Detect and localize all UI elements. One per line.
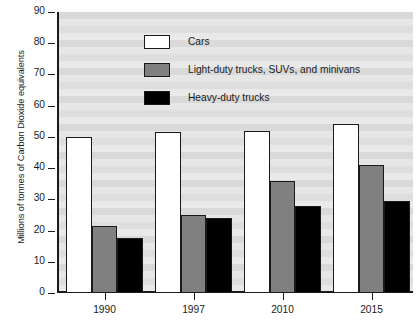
- bar: [155, 132, 181, 293]
- bar: [270, 181, 296, 293]
- y-tick-label: 40: [34, 161, 45, 172]
- bar: [92, 226, 118, 293]
- y-tick-label: 20: [34, 224, 45, 235]
- y-tick-mark: [48, 74, 55, 75]
- bar: [206, 218, 232, 293]
- x-tick-mark: [194, 293, 195, 300]
- y-tick-label: 80: [34, 36, 45, 47]
- x-tick-mark: [105, 293, 106, 300]
- y-tick-mark: [48, 137, 55, 138]
- legend-item: Cars: [144, 31, 360, 52]
- legend-label: Cars: [188, 36, 210, 47]
- legend: CarsLight-duty trucks, SUVs, and minivan…: [144, 31, 360, 115]
- y-axis-ticks: 0102030405060708090: [0, 0, 57, 329]
- y-tick-mark: [48, 43, 55, 44]
- legend-label: Light-duty trucks, SUVs, and minivans: [188, 64, 360, 75]
- y-tick-label: 90: [34, 5, 45, 16]
- y-tick-mark: [48, 262, 55, 263]
- x-axis-ticks: 1990199720102015: [57, 293, 413, 329]
- x-tick-mark: [283, 293, 284, 300]
- y-tick-mark: [48, 12, 55, 13]
- x-tick-label: 1990: [75, 304, 135, 315]
- y-tick-label: 70: [34, 67, 45, 78]
- x-tick-label: 2010: [253, 304, 313, 315]
- bar: [333, 124, 359, 293]
- bar: [117, 238, 143, 293]
- bar: [181, 215, 207, 293]
- x-tick-label: 1997: [164, 304, 224, 315]
- x-tick-mark: [372, 293, 373, 300]
- y-tick-mark: [48, 231, 55, 232]
- y-tick-label: 0: [39, 286, 45, 297]
- legend-swatch: [144, 63, 170, 77]
- legend-label: Heavy-duty trucks: [188, 92, 270, 103]
- y-tick-mark: [48, 293, 55, 294]
- x-tick-label: 2015: [342, 304, 402, 315]
- bar: [66, 137, 92, 293]
- y-tick-label: 30: [34, 192, 45, 203]
- y-tick-mark: [48, 106, 55, 107]
- y-tick-label: 60: [34, 99, 45, 110]
- legend-item: Heavy-duty trucks: [144, 87, 360, 108]
- bar: [244, 131, 270, 293]
- legend-item: Light-duty trucks, SUVs, and minivans: [144, 59, 360, 80]
- y-tick-mark: [48, 199, 55, 200]
- bar-group: [66, 12, 143, 293]
- y-tick-mark: [48, 168, 55, 169]
- y-tick-label: 50: [34, 130, 45, 141]
- legend-swatch: [144, 35, 170, 49]
- bar: [384, 201, 410, 293]
- bar: [295, 206, 321, 293]
- bar: [359, 165, 385, 293]
- legend-swatch: [144, 91, 170, 105]
- y-tick-label: 10: [34, 255, 45, 266]
- bar-chart: Millions of tonnes of Carbon Dioxide equ…: [0, 0, 419, 329]
